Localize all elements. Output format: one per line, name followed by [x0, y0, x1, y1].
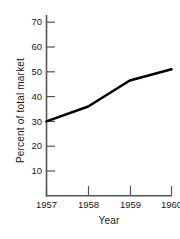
- x-axis-title: Year: [46, 215, 172, 226]
- x-tick-label-1960: 1960: [154, 200, 180, 210]
- data-series-line: [47, 69, 172, 121]
- x-axis-ticks: [47, 186, 172, 195]
- x-tick-label-1958: 1958: [71, 200, 106, 210]
- chart-figure: 70 60 50 40 30 20 10 1957 1958 1959 1960…: [0, 0, 180, 239]
- y-axis-title: Percent of total market: [15, 31, 26, 191]
- y-axis-ticks: [47, 22, 55, 171]
- x-tick-label-1959: 1959: [113, 200, 148, 210]
- x-tick-label-1957: 1957: [29, 200, 64, 210]
- y-tick-label-70: 70: [14, 17, 42, 27]
